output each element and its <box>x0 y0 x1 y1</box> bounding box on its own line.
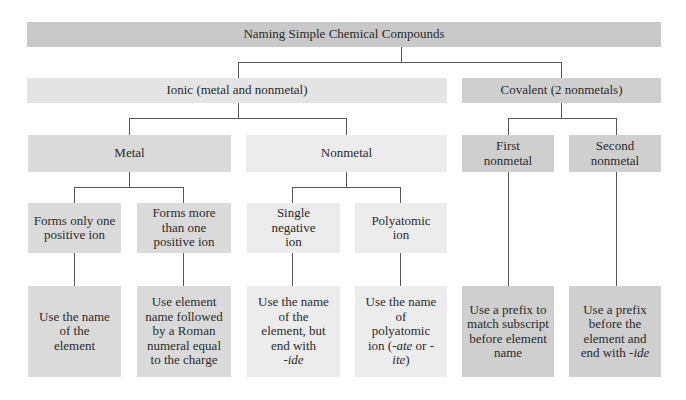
rule-polyatomic-ion-text: Use the name of polyatomic ion (-ate or … <box>365 295 437 368</box>
single-negative-ion-node: Single negative ion <box>247 203 340 253</box>
rule-multi-positive-ion: Use element name followed by a Roman num… <box>137 286 231 377</box>
connector-covalent-down <box>561 103 562 118</box>
connector-to-second-nonmetal <box>616 118 617 135</box>
connector-polyatomic-rule <box>400 253 401 286</box>
connector-to-single-negative <box>292 187 293 203</box>
one-positive-ion-node: Forms only one positive ion <box>28 203 121 253</box>
connector-first-nonmetal-rule <box>508 172 509 286</box>
rule-first-nonmetal: Use a prefix to match subscript before e… <box>462 286 554 377</box>
connector-nonmetal-down <box>346 172 347 187</box>
rule-single-negative-ion-suffix: -ide <box>255 353 332 368</box>
connector-covalent-horizontal <box>508 118 617 119</box>
connector-metal-horizontal <box>74 187 184 188</box>
rule-polyatomic-ion: Use the name of polyatomic ion (-ate or … <box>355 286 447 377</box>
title-label: Naming Simple Chemical Compounds <box>243 27 444 42</box>
title-node: Naming Simple Chemical Compounds <box>27 22 661 47</box>
connector-metal-down <box>129 172 130 187</box>
second-nonmetal-node: Second nonmetal <box>569 135 661 172</box>
connector-to-nonmetal <box>346 118 347 135</box>
covalent-node: Covalent (2 nonmetals) <box>462 78 661 103</box>
connector-to-ionic <box>238 62 239 78</box>
metal-label: Metal <box>114 146 144 161</box>
rule-second-nonmetal-suffix: -ide <box>629 345 649 360</box>
first-nonmetal-node: First nonmetal <box>462 135 554 172</box>
connector-nonmetal-horizontal <box>292 187 401 188</box>
polyatomic-ion-label: Polyatomic ion <box>365 214 437 243</box>
nonmetal-label: Nonmetal <box>321 146 372 161</box>
one-positive-ion-label: Forms only one positive ion <box>32 214 117 243</box>
connector-one-positive-rule <box>74 253 75 286</box>
polyatomic-ion-node: Polyatomic ion <box>355 203 447 253</box>
connector-to-multi-positive <box>183 187 184 203</box>
rule-single-negative-ion-prefix: Use the name of the element, but end wit… <box>258 294 329 353</box>
rule-single-negative-ion-text: Use the name of the element, but end wit… <box>255 295 332 368</box>
connector-level1-horizontal <box>238 62 562 63</box>
connector-to-first-nonmetal <box>508 118 509 135</box>
connector-to-metal <box>129 118 130 135</box>
multi-positive-ion-node: Forms more than one positive ion <box>137 203 231 253</box>
rule-second-nonmetal: Use a prefix before the element and end … <box>569 286 661 377</box>
rule-polyatomic-ate: -ate <box>392 338 412 353</box>
connector-to-covalent <box>561 62 562 78</box>
rule-multi-positive-ion-text: Use element name followed by a Roman num… <box>143 295 225 368</box>
ionic-label: Ionic (metal and nonmetal) <box>166 83 307 98</box>
second-nonmetal-label: Second nonmetal <box>583 139 647 168</box>
rule-polyatomic-close: ) <box>405 352 409 367</box>
rule-second-nonmetal-text: Use a prefix before the element and end … <box>573 303 657 361</box>
rule-single-negative-ion: Use the name of the element, but end wit… <box>247 286 340 377</box>
covalent-label: Covalent (2 nonmetals) <box>500 83 622 98</box>
rule-one-positive-ion: Use the name of the element <box>28 286 121 377</box>
rule-polyatomic-or: or <box>412 338 429 353</box>
ionic-node: Ionic (metal and nonmetal) <box>27 78 447 103</box>
first-nonmetal-label: First nonmetal <box>476 139 540 168</box>
connector-single-negative-rule <box>292 253 293 286</box>
nonmetal-node: Nonmetal <box>246 135 447 172</box>
connector-to-polyatomic <box>400 187 401 203</box>
rule-first-nonmetal-text: Use a prefix to match subscript before e… <box>466 303 550 361</box>
connector-ionic-horizontal <box>129 118 347 119</box>
connector-to-one-positive <box>74 187 75 203</box>
multi-positive-ion-label: Forms more than one positive ion <box>141 206 227 250</box>
connector-second-nonmetal-rule <box>616 172 617 286</box>
connector-title-down <box>401 47 402 62</box>
connector-multi-positive-rule <box>183 253 184 286</box>
single-negative-ion-label: Single negative ion <box>265 206 322 250</box>
rule-one-positive-ion-text: Use the name of the element <box>38 310 111 354</box>
connector-ionic-down <box>238 103 239 118</box>
metal-node: Metal <box>28 135 231 172</box>
